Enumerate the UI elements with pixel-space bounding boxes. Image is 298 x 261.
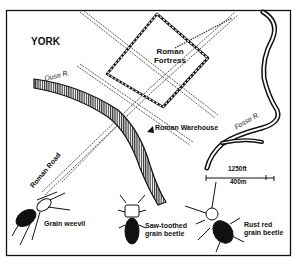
- fortress-label-line1: Roman: [152, 47, 188, 56]
- rust-red-beetle-label: Rust red grain beetle: [244, 221, 283, 237]
- york-map: YORK Roman Fortress Roman Warehouse Ouse…: [0, 0, 298, 261]
- warehouse-label: Roman Warehouse: [155, 124, 218, 131]
- rust-red-label-line2: grain beetle: [244, 229, 283, 237]
- grain-weevil-label: Grain weevil: [44, 220, 85, 228]
- rust-red-label-line1: Rust red: [244, 221, 283, 229]
- grain-weevil-label-line1: Grain weevil: [44, 220, 85, 228]
- scale-feet-label: 1250ft: [228, 166, 247, 173]
- saw-toothed-label-line2: grain beetle: [145, 230, 187, 238]
- saw-toothed-beetle-label: Saw-toothed grain beetle: [145, 222, 187, 238]
- fortress-label-line2: Fortress: [152, 56, 188, 65]
- scale-meters-label: 400m: [230, 179, 247, 186]
- map-title: YORK: [31, 37, 60, 47]
- fortress-label: Roman Fortress: [152, 47, 188, 65]
- saw-toothed-label-line1: Saw-toothed: [145, 222, 187, 230]
